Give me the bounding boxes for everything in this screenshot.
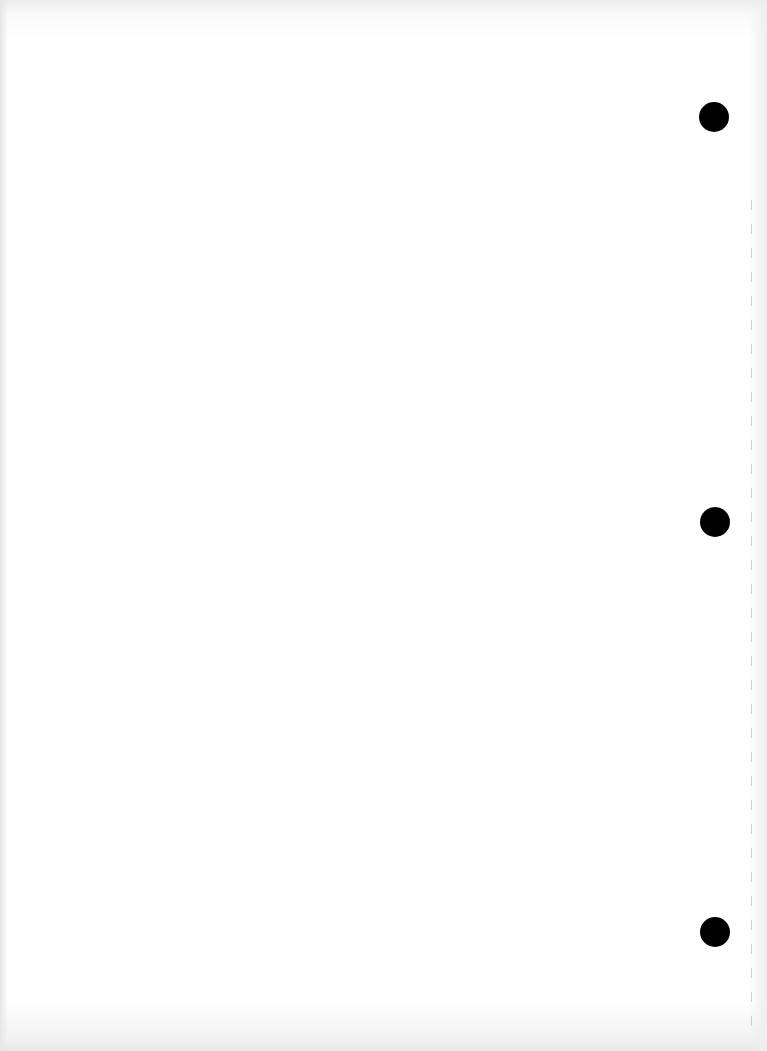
tick-mark [751, 800, 752, 810]
tick-mark [751, 680, 752, 690]
tick-mark [751, 704, 752, 714]
tick-mark [751, 560, 752, 570]
tick-mark [751, 392, 752, 402]
tick-mark [751, 752, 752, 762]
tick-mark [751, 488, 752, 498]
tick-mark [751, 872, 752, 882]
tick-mark [751, 632, 752, 642]
tick-mark [751, 656, 752, 666]
tick-mark [751, 440, 752, 450]
tick-mark [751, 536, 752, 546]
tick-mark [751, 728, 752, 738]
punch-hole-icon [700, 507, 730, 537]
scanned-page [0, 0, 767, 1051]
tick-mark [751, 992, 752, 1002]
tick-mark [751, 608, 752, 618]
tick-mark [751, 296, 752, 306]
tick-mark [751, 1016, 752, 1026]
tick-mark [751, 320, 752, 330]
left-edge-shadow [0, 0, 8, 1051]
tick-mark [751, 824, 752, 834]
tick-mark [751, 968, 752, 978]
edge-tick-marks [750, 0, 756, 860]
tick-mark [751, 512, 752, 522]
tick-mark [751, 344, 752, 354]
tick-mark [751, 224, 752, 234]
tick-mark [751, 368, 752, 378]
tick-mark [751, 248, 752, 258]
tick-mark [751, 944, 752, 954]
tick-mark [751, 848, 752, 858]
tick-mark [751, 200, 752, 210]
tick-mark [751, 464, 752, 474]
tick-mark [751, 776, 752, 786]
tick-mark [751, 416, 752, 426]
tick-mark [751, 272, 752, 282]
tick-mark [751, 584, 752, 594]
punch-hole-icon [700, 917, 730, 947]
tick-mark [751, 920, 752, 930]
tick-mark [751, 896, 752, 906]
punch-hole-icon [699, 102, 729, 132]
